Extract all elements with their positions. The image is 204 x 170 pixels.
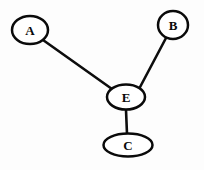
node-c-ellipse[interactable] (104, 134, 153, 157)
node-a[interactable]: A (12, 16, 48, 44)
edge-a-e (43, 40, 112, 89)
edge-b-e (139, 38, 166, 89)
node-b-ellipse[interactable] (158, 11, 188, 39)
edge-e-c (126, 110, 127, 134)
node-c[interactable]: C (104, 134, 153, 157)
node-e-ellipse[interactable] (107, 85, 145, 110)
node-e[interactable]: E (107, 85, 145, 110)
diagram-canvas: A B E C (0, 0, 204, 170)
node-a-ellipse[interactable] (12, 16, 48, 44)
node-b[interactable]: B (158, 11, 188, 39)
graph-diagram: A B E C (0, 0, 204, 170)
edge-layer (43, 38, 166, 134)
